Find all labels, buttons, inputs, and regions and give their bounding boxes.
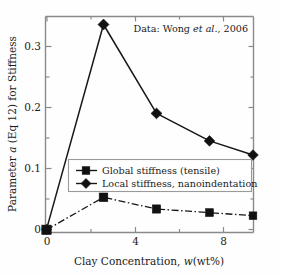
- legend-label-global-stiffness: Global stiffness (tensile): [102, 165, 220, 176]
- y-axis-right-ticks: [249, 47, 254, 230]
- series-global-stiffness-line: [47, 197, 254, 230]
- annotation-part-2: , 2006: [217, 23, 248, 34]
- annotation-part-0: Data: Wong: [133, 23, 193, 34]
- series-local-stiffness: [42, 19, 259, 234]
- y-tick-label-3: 0.3: [24, 40, 41, 52]
- x-tick-label-0: 0: [44, 235, 51, 247]
- x-axis-title-part-0: Clay Concentration,: [74, 255, 184, 267]
- y-axis-title-part-2: (Eq 12) for Stiffness: [6, 36, 18, 147]
- x-tick-label-1: 4: [132, 235, 139, 247]
- data-point-marker: [249, 212, 257, 220]
- series-global-stiffness: [42, 193, 257, 235]
- legend-marker-square-icon: [82, 167, 90, 175]
- data-point-marker: [42, 225, 51, 234]
- y-tick-label-2: 0.2: [24, 101, 41, 113]
- data-source-annotation: Data: Wong et al., 2006: [133, 23, 248, 34]
- y-tick-label-1: 0.1: [24, 162, 41, 174]
- x-axis-title: Clay Concentration, w(wt%): [74, 255, 224, 267]
- data-point-marker: [206, 209, 214, 217]
- axis-frame: [46, 17, 254, 233]
- data-point-marker: [99, 193, 108, 202]
- y-axis-title-part-0: Parameter: [6, 153, 18, 212]
- x-axis-title-part-2: (wt%): [193, 255, 224, 267]
- y-tick-label-0: 0: [34, 223, 41, 235]
- chart-figure: 0 0.1 0.2 0.3 0 4 8 Parameter a (Eq 12) …: [0, 0, 282, 276]
- chart-canvas: 0 0.1 0.2 0.3 0 4 8 Parameter a (Eq 12) …: [0, 0, 282, 276]
- x-tick-labels: 0 4 8: [44, 235, 227, 247]
- x-axis-top-ticks: [47, 17, 224, 22]
- x-axis-major-ticks: [47, 227, 224, 233]
- data-point-marker: [152, 205, 160, 213]
- y-tick-labels: 0 0.1 0.2 0.3: [24, 40, 41, 235]
- series-local-stiffness-line: [47, 25, 254, 230]
- data-point-marker: [248, 150, 259, 161]
- y-axis-title: Parameter a (Eq 12) for Stiffness: [6, 36, 18, 212]
- x-axis-title-part-1: w: [184, 255, 193, 267]
- annotation-part-1: et al.: [193, 23, 217, 34]
- legend-label-local-stiffness: Local stiffness, nanoindentation: [102, 178, 257, 189]
- legend-item-local-stiffness[interactable]: Local stiffness, nanoindentation: [76, 178, 257, 189]
- data-point-marker: [204, 136, 215, 147]
- data-point-marker: [151, 108, 162, 119]
- chart-legend: Global stiffness (tensile) Local stiffne…: [69, 160, 258, 192]
- data-point-marker: [98, 19, 109, 30]
- x-tick-label-2: 8: [220, 235, 227, 247]
